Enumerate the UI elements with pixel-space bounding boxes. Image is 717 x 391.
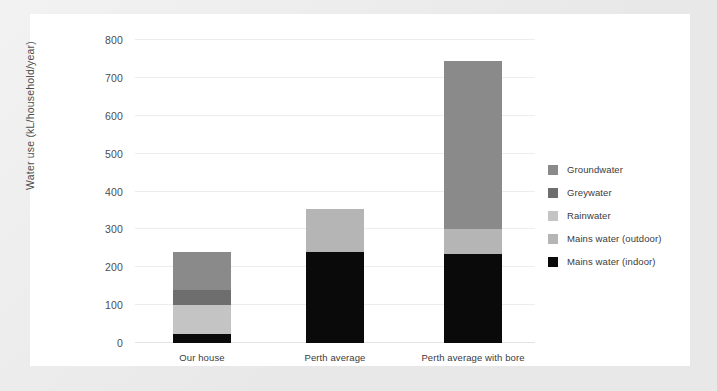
bar-segment[interactable]: [306, 252, 364, 343]
bar-segment[interactable]: [444, 61, 502, 230]
gridline-800: [135, 39, 535, 40]
legend-item[interactable]: Groundwater: [548, 158, 662, 181]
legend-item-label: Mains water (indoor): [567, 256, 656, 267]
legend-item[interactable]: Mains water (indoor): [548, 250, 662, 273]
bar-segment[interactable]: [173, 290, 231, 305]
bar-segment[interactable]: [306, 209, 364, 253]
y-tick-label: 0: [77, 337, 123, 349]
legend-swatch-icon: [548, 211, 558, 221]
legend-item[interactable]: Mains water (outdoor): [548, 227, 662, 250]
bar-stack[interactable]: [306, 209, 364, 343]
y-axis-title: Water use (kL/household/year): [24, 41, 36, 190]
bar-segment[interactable]: [444, 229, 502, 254]
chart-card: Water use (kL/household/year) 0100200300…: [30, 14, 690, 366]
legend-swatch-icon: [548, 188, 558, 198]
legend-item[interactable]: Rainwater: [548, 204, 662, 227]
bar-segment[interactable]: [173, 252, 231, 290]
x-axis-label: Perth average with bore: [393, 352, 553, 363]
y-tick-label: 600: [77, 110, 123, 122]
y-tick-label: 100: [77, 299, 123, 311]
y-tick-label: 400: [77, 186, 123, 198]
legend-item[interactable]: Greywater: [548, 181, 662, 204]
y-tick-label: 800: [77, 34, 123, 46]
legend-swatch-icon: [548, 165, 558, 175]
y-tick-label: 200: [77, 261, 123, 273]
legend-swatch-icon: [548, 234, 558, 244]
bar-stack[interactable]: [173, 252, 231, 343]
plot-area: Our housePerth averagePerth average with…: [135, 40, 535, 343]
bar-segment[interactable]: [173, 305, 231, 333]
legend-item-label: Greywater: [567, 187, 612, 198]
y-axis-tick-labels: 0100200300400500600700800: [77, 40, 123, 343]
y-tick-label: 700: [77, 72, 123, 84]
legend-swatch-icon: [548, 257, 558, 267]
bar-stack[interactable]: [444, 61, 502, 343]
legend-item-label: Rainwater: [567, 210, 611, 221]
y-tick-label: 300: [77, 223, 123, 235]
x-axis-label: Perth average: [255, 352, 415, 363]
chart-legend: GroundwaterGreywaterRainwaterMains water…: [548, 158, 662, 273]
legend-item-label: Mains water (outdoor): [567, 233, 662, 244]
y-tick-label: 500: [77, 148, 123, 160]
bar-segment[interactable]: [173, 334, 231, 343]
legend-item-label: Groundwater: [567, 164, 623, 175]
bar-segment[interactable]: [444, 254, 502, 343]
